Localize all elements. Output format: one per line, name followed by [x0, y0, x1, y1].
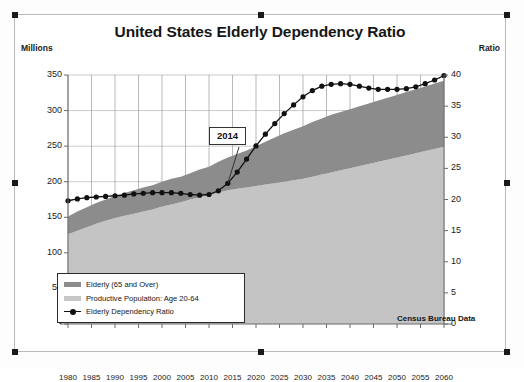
y-axis-right-tick: 15	[451, 225, 473, 235]
selection-handle-middle-right[interactable]	[504, 180, 510, 186]
area-swatch-light-icon	[64, 296, 81, 301]
selection-handle-bottom-left[interactable]	[12, 349, 18, 355]
y-axis-left-tick: 100	[36, 247, 62, 257]
y-axis-right-tick: 40	[451, 69, 473, 79]
selection-handle-bottom-center[interactable]	[258, 349, 264, 355]
y-axis-right-tick: 30	[451, 131, 473, 141]
selection-handle-top-right[interactable]	[504, 12, 510, 18]
y-axis-right-tick: 10	[451, 256, 473, 266]
legend-item-productive: Productive Population: Age 20-64	[64, 292, 238, 306]
y-axis-right-tick: 35	[451, 100, 473, 110]
legend-label-productive: Productive Population: Age 20-64	[86, 294, 199, 303]
y-axis-right-tick: 5	[451, 287, 473, 297]
y-axis-left-tick: 200	[36, 176, 62, 186]
selection-handle-top-left[interactable]	[12, 12, 18, 18]
annotation-2014-label: 2014	[209, 127, 246, 145]
chart-title: United States Elderly Dependency Ratio	[15, 23, 505, 41]
selection-handle-middle-left[interactable]	[12, 180, 18, 186]
y-axis-right-tick: 20	[451, 194, 473, 204]
legend-item-ratio: Elderly Dependency Ratio	[64, 305, 238, 319]
y-axis-left-tick: 300	[36, 105, 62, 115]
legend-item-elderly: Elderly (65 and Over)	[64, 278, 238, 292]
legend-label-elderly: Elderly (65 and Over)	[86, 280, 158, 289]
y-axis-right-tick: 25	[451, 162, 473, 172]
y-axis-left-tick: 250	[36, 140, 62, 150]
selection-handle-bottom-right[interactable]	[504, 349, 510, 355]
y-axis-left-tick: 350	[36, 69, 62, 79]
chart-legend: Elderly (65 and Over) Productive Populat…	[57, 273, 245, 323]
chart-object-frame[interactable]: United States Elderly Dependency Ratio M…	[14, 14, 506, 352]
y-axis-left-tick: 150	[36, 211, 62, 221]
line-marker-icon	[64, 308, 81, 316]
left-axis-caption: Millions	[21, 43, 53, 53]
x-axis-tick: 2060	[429, 373, 459, 382]
legend-label-ratio: Elderly Dependency Ratio	[86, 307, 174, 316]
source-note: Census Bureau Data	[397, 314, 475, 323]
selection-handle-top-center[interactable]	[258, 12, 264, 18]
area-swatch-dark-icon	[64, 282, 81, 287]
right-axis-caption: Ratio	[479, 43, 500, 53]
chart-plot-svg	[46, 59, 466, 379]
